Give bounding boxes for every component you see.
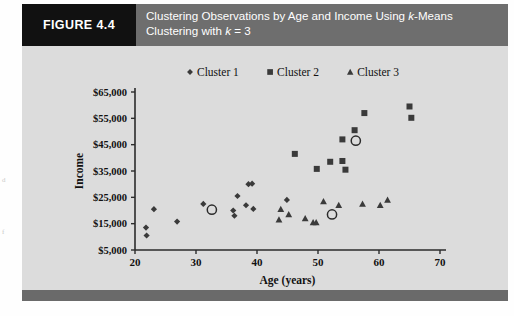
x-tick-label: 20 <box>130 256 142 268</box>
legend-label: Cluster 3 <box>357 66 399 78</box>
data-point-triangle <box>276 216 283 222</box>
centroid-marker <box>351 136 360 145</box>
figure-number-badge: FIGURE 4.4 <box>22 4 136 46</box>
data-point-diamond <box>231 213 237 219</box>
centroid-marker <box>207 205 216 214</box>
data-point-diamond <box>143 232 149 238</box>
y-tick-label: $45,000 <box>93 139 127 150</box>
data-point-square <box>327 159 333 165</box>
y-tick-label: $35,000 <box>93 166 127 177</box>
legend-marker-triangle <box>347 69 353 75</box>
data-point-square <box>408 115 414 121</box>
x-tick-label: 50 <box>313 256 325 268</box>
data-point-diamond <box>230 207 236 213</box>
data-point-square <box>352 127 358 133</box>
data-point-triangle <box>285 211 292 217</box>
figure-page: d f FIGURE 4.4 Clustering Observations b… <box>0 0 514 316</box>
data-point-diamond <box>249 181 255 187</box>
margin-ghost-note-2: f <box>2 228 5 236</box>
figure-plate: $5,000$15,000$25,000$35,000$45,000$55,00… <box>22 46 508 290</box>
legend-label: Cluster 1 <box>197 66 239 78</box>
y-tick-label: $25,000 <box>93 192 127 203</box>
data-point-diamond <box>243 202 249 208</box>
x-tick-label: 40 <box>252 256 264 268</box>
data-point-triangle <box>335 202 342 208</box>
centroid-marker <box>327 210 336 219</box>
x-axis-title: Age (years) <box>260 274 316 287</box>
data-point-square <box>342 167 348 173</box>
legend-marker-diamond <box>187 69 193 75</box>
y-tick-label: $65,000 <box>93 87 127 98</box>
data-point-triangle <box>359 201 366 207</box>
data-point-diamond <box>143 225 149 231</box>
margin-ghost-note-1: d <box>2 176 6 184</box>
data-point-square <box>407 103 413 109</box>
data-point-square <box>314 166 320 172</box>
data-point-triangle <box>277 206 284 212</box>
data-point-triangle <box>302 215 309 221</box>
data-point-triangle <box>384 197 391 203</box>
y-tick-label: $55,000 <box>93 113 127 124</box>
scatter-chart: $5,000$15,000$25,000$35,000$45,000$55,00… <box>22 46 508 290</box>
data-point-diamond <box>200 201 206 207</box>
legend-marker-square <box>267 69 273 75</box>
data-point-square <box>339 158 345 164</box>
x-tick-label: 30 <box>191 256 203 268</box>
data-point-diamond <box>234 193 240 199</box>
x-tick-label: 70 <box>435 256 447 268</box>
data-point-square <box>361 110 367 116</box>
y-tick-label: $15,000 <box>93 218 127 229</box>
data-point-diamond <box>174 218 180 224</box>
figure-number-text: FIGURE 4.4 <box>43 18 115 32</box>
data-point-triangle <box>377 202 384 208</box>
figure-footer-bar <box>22 290 508 301</box>
y-axis-title: Income <box>73 153 85 189</box>
figure-caption-line-2: Clustering with k = 3 <box>146 23 498 38</box>
chart-svg: $5,000$15,000$25,000$35,000$45,000$55,00… <box>22 46 508 290</box>
x-tick-label: 60 <box>374 256 386 268</box>
y-tick-label: $5,000 <box>98 245 127 256</box>
data-point-diamond <box>151 206 157 212</box>
data-point-triangle <box>320 198 327 204</box>
legend-label: Cluster 2 <box>277 66 319 78</box>
data-point-diamond <box>284 197 290 203</box>
figure-caption-line-1: Clustering Observations by Age and Incom… <box>146 8 498 23</box>
data-point-square <box>292 151 298 157</box>
data-point-diamond <box>250 206 256 212</box>
figure-caption: Clustering Observations by Age and Incom… <box>146 8 498 38</box>
data-point-square <box>339 136 345 142</box>
